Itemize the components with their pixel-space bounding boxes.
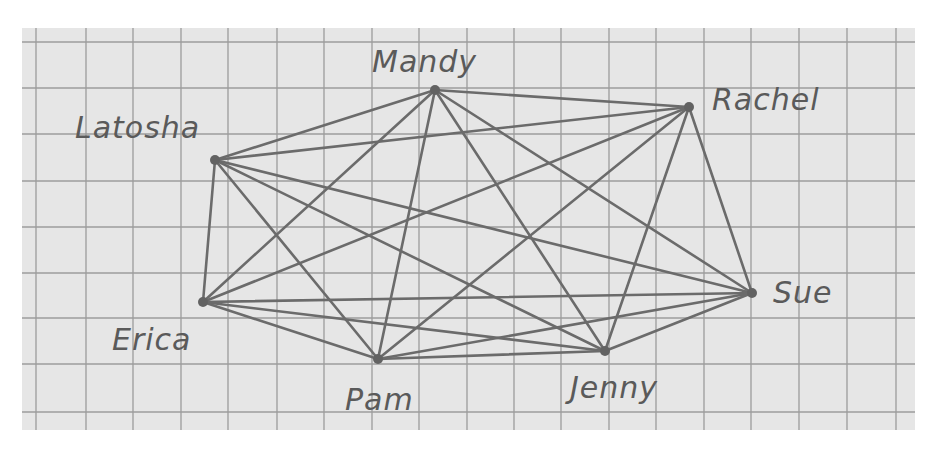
node-label-sue: Sue [773,275,833,310]
diagram-canvas: LatoshaMandyRachelEricaPamJennySue [0,0,951,455]
node-label-latosha: Latosha [75,110,200,145]
node-label-jenny: Jenny [565,370,658,405]
node-sue [747,288,757,298]
node-label-erica: Erica [112,322,192,357]
node-rachel [684,102,694,112]
node-jenny [600,346,610,356]
node-pam [373,354,383,364]
node-label-mandy: Mandy [372,44,477,79]
graph-svg: LatoshaMandyRachelEricaPamJennySue [0,0,951,455]
node-erica [198,297,208,307]
node-mandy [430,85,440,95]
node-latosha [210,155,220,165]
node-label-pam: Pam [345,382,414,417]
node-label-rachel: Rachel [712,82,820,117]
